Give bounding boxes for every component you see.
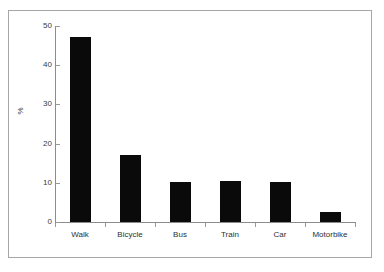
x-axis-tick-mark (355, 223, 356, 227)
y-axis-tick-mark (56, 65, 60, 66)
y-axis-tick-mark (56, 222, 60, 223)
x-axis-tick-label: Car (255, 230, 305, 240)
bar (170, 182, 191, 222)
x-axis-tick-mark (155, 223, 156, 227)
x-axis-tick-labels: WalkBicycleBusTrainCarMotorbike (55, 230, 355, 244)
y-axis-tick-label: 0 (26, 218, 52, 226)
y-axis-tick-label: 10 (26, 179, 52, 187)
y-axis-tick-mark (56, 144, 60, 145)
x-axis-tick-mark (255, 223, 256, 227)
y-axis-tick-labels: 01020304050 (20, 0, 52, 272)
x-axis-tick-label: Bus (155, 230, 205, 240)
x-axis-tick-mark (55, 223, 56, 227)
plot-area (55, 26, 355, 222)
x-axis-tick-label: Walk (55, 230, 105, 240)
x-axis-tick-mark (305, 223, 306, 227)
bar-chart: % 01020304050 WalkBicycleBusTrainCarMoto… (0, 0, 384, 272)
x-axis-tick-label: Bicycle (105, 230, 155, 240)
x-axis-tick-mark (105, 223, 106, 227)
x-axis-tick-label: Motorbike (305, 230, 355, 240)
x-axis-tick-mark (205, 223, 206, 227)
x-axis-tick-label: Train (205, 230, 255, 240)
y-axis-tick-label: 50 (26, 22, 52, 30)
y-axis-tick-mark (56, 183, 60, 184)
y-axis-tick-mark (56, 104, 60, 105)
bar (270, 182, 291, 222)
bar (70, 37, 91, 222)
y-axis-tick-mark (56, 26, 60, 27)
y-axis-tick-label: 20 (26, 140, 52, 148)
y-axis-tick-label: 30 (26, 100, 52, 108)
bar (220, 181, 241, 222)
y-axis-tick-label: 40 (26, 61, 52, 69)
bar (120, 155, 141, 222)
bar (320, 212, 341, 222)
